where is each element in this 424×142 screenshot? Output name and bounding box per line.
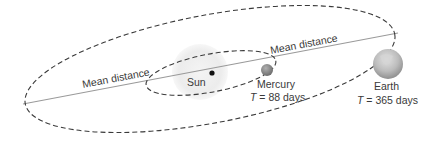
mercury-period-label: T = 88 days: [250, 91, 305, 103]
mercury-planet: [261, 64, 273, 76]
mean-distance-label-right: Mean distance: [269, 31, 338, 56]
sun-focus-dot: [209, 70, 214, 75]
orbit-diagram: Mean distance Mean distance Sun Mercury …: [0, 0, 424, 142]
earth-period-label: T = 365 days: [357, 94, 418, 106]
earth-planet: [373, 49, 403, 79]
earth-period-value: = 365 days: [363, 94, 418, 106]
sun-label: Sun: [187, 76, 206, 88]
mercury-label: Mercury: [257, 78, 296, 90]
mercury-period-value: = 88 days: [256, 91, 305, 103]
earth-label: Earth: [374, 80, 399, 92]
